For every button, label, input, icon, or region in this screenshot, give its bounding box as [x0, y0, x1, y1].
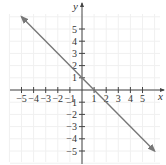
x-tick-label: −3: [40, 93, 51, 104]
y-tick-label: −1: [66, 97, 77, 108]
coordinate-plane: −5−4−3−2−11234554321−1−2−3−4−5 x y: [0, 0, 166, 165]
y-tick-label: 1: [72, 72, 77, 83]
x-tick-label: 4: [128, 93, 133, 104]
y-tick-label: 5: [72, 24, 77, 35]
x-axis-label: x: [157, 90, 163, 102]
x-tick-label: −4: [28, 93, 39, 104]
x-tick-label: −5: [16, 93, 27, 104]
y-tick-label: −2: [66, 109, 77, 120]
x-tick-label: −2: [52, 93, 63, 104]
x-tick-label: 5: [140, 93, 145, 104]
x-tick-label: 3: [116, 93, 121, 104]
line-graph: −5−4−3−2−11234554321−1−2−3−4−5 x y: [0, 0, 166, 165]
y-tick-label: −3: [66, 121, 77, 132]
y-tick-label: −5: [66, 146, 77, 157]
data-line: [22, 17, 155, 151]
grid-lines: [9, 14, 160, 163]
y-tick-label: 3: [72, 48, 77, 59]
line-series: [22, 17, 155, 151]
y-axis-label: y: [72, 0, 78, 12]
x-tick-label: 1: [92, 93, 97, 104]
y-tick-label: −4: [66, 133, 77, 144]
y-tick-label: 4: [72, 36, 77, 47]
